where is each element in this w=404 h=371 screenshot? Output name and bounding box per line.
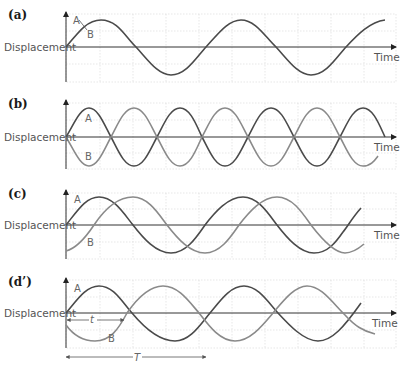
panel-a: (a) Displacement Time A B (4, 8, 400, 82)
curve-label-b-d: B (108, 333, 115, 344)
curve-label-a-d: A (74, 283, 81, 294)
phase-diagram: (a) Displacement Time A B (b) (0, 0, 404, 371)
x-axis-label-a: Time (373, 51, 400, 63)
curve-label-a-c: A (74, 194, 81, 205)
y-axis-label-a: Displacement (4, 41, 76, 53)
grid-b (66, 103, 396, 169)
curve-label-a-b: A (85, 113, 92, 124)
panel-label-c: (c) (8, 187, 27, 201)
panel-label-d: (d’) (8, 275, 32, 289)
panel-c: (c) Displacement Time A B (4, 187, 400, 259)
x-axis-label-b: Time (373, 141, 400, 153)
y-axis-label-c: Displacement (4, 219, 76, 231)
curve-label-b-c: B (87, 237, 94, 248)
curve-label-b-b: B (85, 151, 92, 162)
curve-label-b-a: B (87, 29, 94, 40)
panel-label-a: (a) (8, 8, 27, 22)
y-axis-label-b: Displacement (4, 131, 76, 143)
period-label: T (134, 352, 141, 363)
panel-label-b: (b) (8, 97, 28, 111)
x-axis-label-d: Time (371, 317, 398, 329)
y-axis-label-d: Displacement (4, 307, 76, 319)
panel-d: (d’) Displacement Time A B t (4, 275, 398, 363)
panel-b: (b) Displacement Time A B (4, 97, 400, 169)
x-axis-label-c: Time (373, 229, 400, 241)
